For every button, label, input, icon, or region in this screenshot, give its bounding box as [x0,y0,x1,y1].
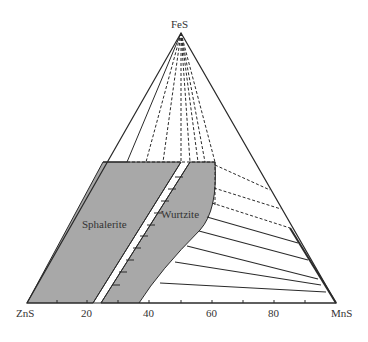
tick-label-20: 20 [81,307,92,319]
vertex-label-left: ZnS [16,307,34,319]
vertex-label-top: FeS [171,18,188,30]
region-label-wurtzite: Wurtzite [161,208,199,220]
tick-label-80: 80 [268,307,279,319]
vertex-label-right: MnS [331,307,352,319]
diagram-canvas [0,0,368,342]
tick-label-60: 60 [206,307,217,319]
region-label-sphalerite: Sphalerite [82,218,127,230]
apex-boundary [127,33,181,162]
tick-label-40: 40 [143,307,154,319]
ternary-diagram: FeS ZnS MnS 20 40 60 80 Sphalerite Wurtz… [0,0,368,342]
